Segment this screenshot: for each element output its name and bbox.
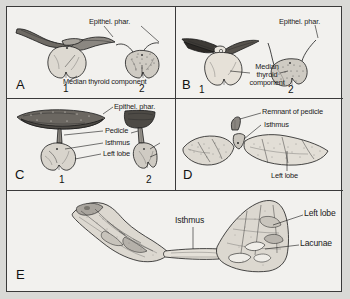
specimen-a2 [116, 43, 159, 78]
leader-epithel-c [103, 107, 113, 114]
panel-letter-e: E [16, 267, 25, 282]
label-epithel-phar-b: Epithel. phar. [279, 18, 320, 26]
specimen-number-a1: 1 [63, 83, 69, 94]
specimen-b1 [182, 39, 259, 85]
panel-e: Isthmus Left lobe Lacunae E [7, 191, 343, 293]
leader-leftlobe-left [75, 154, 101, 159]
label-remnant-of-pedicle-d: Remnant of pedicle [262, 108, 323, 116]
panel-d: Remnant of pedicle Isthmus Left lobe D [176, 99, 343, 190]
leader-epithel-right [141, 26, 159, 42]
specimen-e-left-mass [72, 203, 169, 262]
specimen-number-a2: 2 [139, 83, 145, 94]
label-epithel-phar-a: Epithel. phar. [89, 18, 130, 26]
panel-a: Epithel. phar. Median thyroid component … [7, 7, 175, 98]
leader-epithel-left [104, 26, 113, 37]
label-isthmus-e: Isthmus [175, 216, 204, 224]
panel-letter-c: C [15, 167, 24, 182]
leader-pedicle-right [131, 131, 138, 133]
label-median-thyroid-component-a: Median thyroid component [63, 78, 147, 86]
label-left-lobe-c: Left lobe [103, 150, 130, 158]
specimen-number-c1: 1 [59, 174, 65, 185]
leader-isthmus-left [65, 143, 103, 149]
leader-epithel-b [315, 25, 318, 38]
label-isthmus-c: Isthmus [105, 139, 130, 147]
specimen-a1 [16, 29, 115, 78]
label-lacunae-e: Lacunae [300, 239, 332, 247]
specimen-e-right-mass [216, 200, 288, 271]
specimen-number-c2: 2 [146, 174, 152, 185]
label-median-line3: component [249, 78, 284, 87]
label-left-lobe-d: Left lobe [271, 172, 298, 180]
panel-e-illustration [7, 191, 343, 293]
leader-pedicle-left [64, 131, 103, 135]
panel-letter-d: D [183, 167, 192, 182]
label-median-thyroid-component-b: Median thyroid component [249, 63, 285, 88]
specimen-number-b1: 1 [199, 84, 205, 95]
specimen-c1 [17, 110, 105, 170]
label-isthmus-d: Isthmus [264, 121, 289, 129]
figure-frame: Epithel. phar. Median thyroid component … [6, 6, 342, 292]
panel-letter-b: B [182, 77, 191, 92]
label-pedicle-c: Pedicle [105, 127, 128, 135]
panel-b: Epithel. phar. Median thyroid component … [176, 7, 343, 98]
panel-letter-a: A [16, 77, 25, 92]
label-left-lobe-e: Left lobe [304, 209, 336, 217]
label-epithel-phar-c: Epithel. phar. [114, 103, 155, 111]
specimen-number-b2: 2 [288, 84, 294, 95]
panel-c: Epithel. phar. Pedicle Isthmus Left lobe… [7, 99, 175, 190]
leader-remnant-pedicle [240, 113, 261, 119]
